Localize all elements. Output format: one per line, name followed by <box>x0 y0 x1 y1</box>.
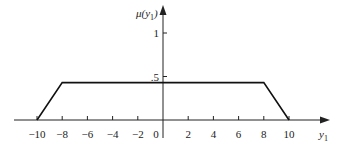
x-tick-label: −2 <box>132 128 144 140</box>
x-tick-label: 8 <box>261 128 267 140</box>
x-tick-label: −4 <box>107 128 119 140</box>
y-tick-label: .5 <box>151 71 160 83</box>
x-tick-label: 10 <box>284 128 296 140</box>
y-axis-label: μ(y1) <box>135 7 158 22</box>
x-axis-label: y1 <box>318 128 328 143</box>
chart: −10−8−6−4−20246810 .51 μ(y1) y1 <box>0 0 337 145</box>
y-ticks: .51 <box>151 27 167 83</box>
x-tick-label: 2 <box>185 128 191 140</box>
y-axis-arrow-icon <box>160 5 167 15</box>
x-tick-label: 0 <box>153 128 159 140</box>
x-axis-arrow-icon <box>320 117 330 124</box>
x-tick-label: −8 <box>56 128 68 140</box>
y-tick-label: 1 <box>154 27 160 39</box>
x-tick-label: −10 <box>28 128 46 140</box>
x-tick-label: 6 <box>236 128 242 140</box>
x-tick-label: 4 <box>211 128 217 140</box>
x-tick-label: −6 <box>82 128 94 140</box>
